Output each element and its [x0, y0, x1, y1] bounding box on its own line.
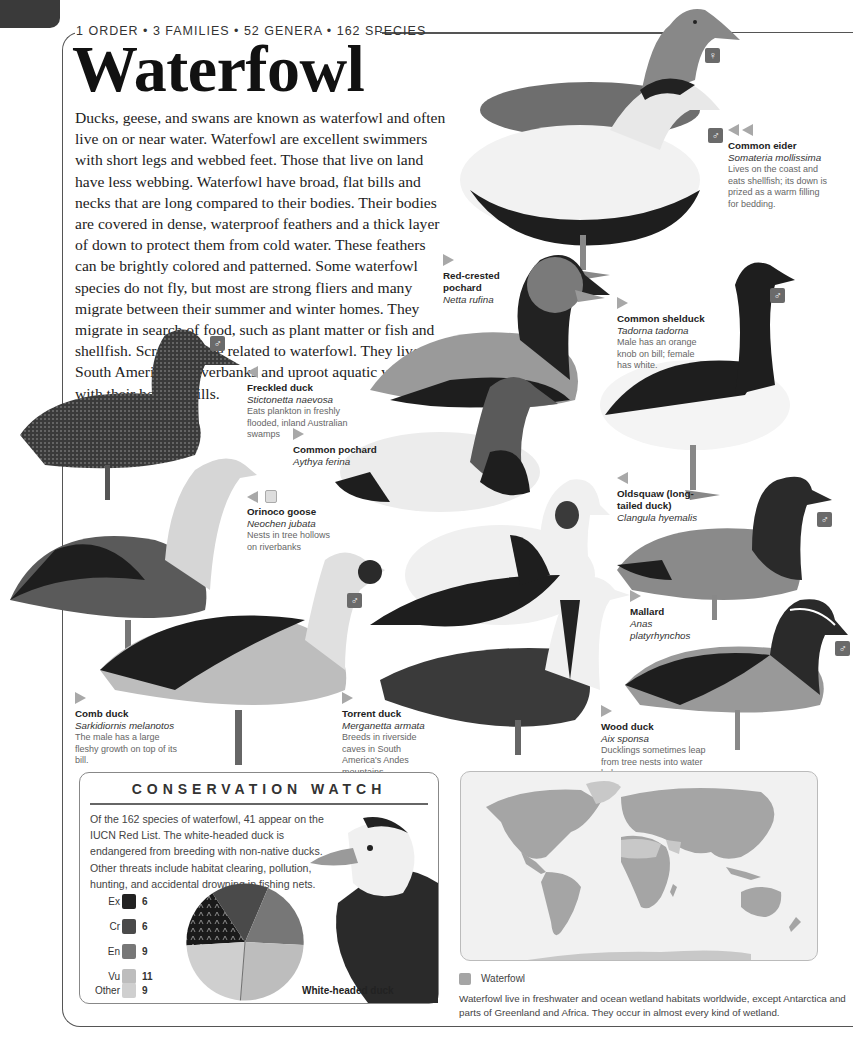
vulnerable-icon [122, 969, 136, 984]
species-caption-comb-duck: Comb duck Sarkidiornis melanotos The mal… [75, 692, 185, 767]
page-title: Waterfowl [72, 36, 364, 102]
map-legend-label: Waterfowl [481, 973, 525, 984]
waterfowl-range-swatch [459, 973, 471, 985]
distribution-map [460, 771, 818, 961]
extinct-icon [122, 894, 136, 909]
legend-row-other: Other 9 [80, 983, 150, 1001]
pointer-left-icon [247, 490, 332, 504]
pointer-right-icon [601, 705, 726, 719]
male-icon: ♂ [210, 336, 225, 351]
endangered-icon [122, 944, 136, 959]
critically-endangered-icon [122, 919, 136, 934]
legend-row-en: En 9 [80, 944, 150, 962]
species-caption-orinoco-goose: Orinoco goose Neochen jubata Nests in tr… [247, 490, 332, 553]
red-list-pie-chart [186, 883, 304, 1001]
species-caption-wood-duck: Wood duck Aix sponsa Ducklings sometimes… [601, 705, 726, 780]
species-caption-common-shelduck: Common shelduck Tadorna tadorna Male has… [617, 297, 707, 372]
male-icon: ♂ [835, 641, 850, 656]
species-caption-common-eider: Common eider Somateria mollissima Lives … [728, 124, 828, 210]
pointer-left-icon [617, 472, 717, 486]
male-icon: ♂ [770, 288, 785, 303]
male-icon: ♂ [708, 128, 723, 143]
world-map-graphic [461, 772, 818, 961]
pointer-right-icon [443, 254, 523, 268]
conservation-title: CONSERVATION WATCH [80, 781, 438, 797]
male-icon: ♂ [347, 593, 362, 608]
page-number-tab [0, 0, 60, 28]
other-status-icon [122, 983, 136, 998]
white-headed-duck-caption: White-headed duck [302, 985, 394, 996]
species-caption-red-crested-pochard: Red-crested pochard Netta rufina [443, 254, 523, 306]
pointer-right-icon [293, 428, 393, 442]
male-icon: ♂ [817, 512, 832, 527]
pointer-right-icon [75, 692, 185, 706]
species-caption-common-pochard: Common pochard Aythya ferina [293, 428, 393, 468]
legend-row-ex: Ex 6 [80, 894, 150, 912]
status-vulnerable-icon [265, 490, 277, 503]
pointer-left-double-icon [728, 124, 828, 138]
conservation-text: Of the 162 species of waterfowl, 41 appe… [90, 811, 330, 892]
species-caption-torrent-duck: Torrent duck Merganetta armata Breeds in… [342, 692, 434, 778]
pointer-left-icon [247, 366, 352, 380]
pointer-right-icon [342, 692, 434, 706]
female-icon: ♀ [705, 48, 720, 63]
legend-row-cr: Cr 6 [80, 919, 150, 937]
species-caption-oldsquaw: Oldsquaw (long-tailed duck) Clangula hye… [617, 472, 717, 524]
pointer-right-icon [630, 590, 705, 604]
map-description: Waterfowl live in freshwater and ocean w… [459, 992, 849, 1019]
white-headed-duck-illustration [308, 813, 438, 1003]
conservation-rule [90, 803, 428, 805]
species-caption-mallard: Mallard Anas platyrhynchos [630, 590, 705, 642]
conservation-watch-panel: CONSERVATION WATCH Of the 162 species of… [79, 772, 439, 1004]
pointer-right-icon [617, 297, 707, 311]
